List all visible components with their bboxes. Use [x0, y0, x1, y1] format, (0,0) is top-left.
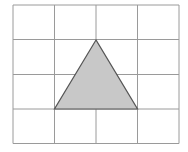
grid-diagram: [0, 0, 188, 152]
